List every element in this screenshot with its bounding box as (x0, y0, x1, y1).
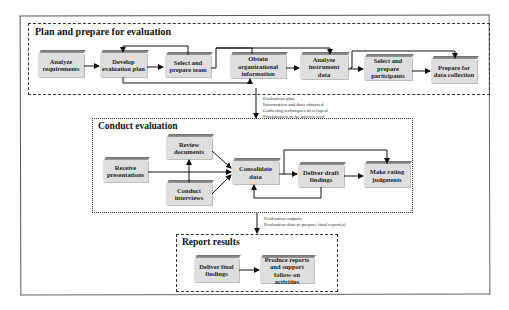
step-deliver-draft-findings: Deliver draft findings (298, 165, 344, 187)
step-select-prepare-team: Select and prepare team (165, 55, 211, 77)
step-label: Consolidate data (232, 165, 279, 180)
step-select-prepare-participants: Select and prepare participants (364, 57, 412, 80)
step-label: Develop evaluation plan (100, 58, 147, 73)
step-label: Conduct interviews (166, 187, 212, 202)
step-label: Make rating judgments (364, 168, 410, 183)
step-label: Receive presentations (103, 164, 148, 179)
step-review-documents: Review documents (166, 137, 212, 159)
section-title-report: Report results (182, 237, 240, 247)
step-produce-reports: Produce reports and support follow-on ac… (260, 258, 314, 283)
step-obtain-org-info: Obtain organizational information (230, 55, 286, 78)
step-label: Deliver final findings (194, 263, 239, 278)
step-develop-evaluation-plan: Develop evaluation plan (100, 53, 147, 77)
step-make-rating-judgments: Make rating judgments (364, 164, 410, 187)
step-label: Select and prepare participants (364, 57, 412, 80)
section-title-plan: Plan and prepare for evaluation (35, 26, 171, 37)
step-label: Review documents (166, 141, 212, 156)
section-title-conduct: Conduct evaluation (98, 121, 177, 131)
step-analyze-requirements: Analyze requirements (38, 53, 84, 77)
step-label: Analyze requirements (38, 58, 84, 73)
step-label: Produce reports and support follow-on ac… (260, 256, 314, 286)
step-label: Analyze instrument data (300, 56, 348, 79)
step-label: Prepare for data collection (431, 64, 477, 79)
step-receive-presentations: Receive presentations (103, 160, 148, 182)
step-analyze-instrument-data: Analyze instrument data (300, 55, 348, 79)
step-label: Obtain organizational information (230, 55, 286, 78)
step-consolidate-data: Consolidate data (232, 161, 279, 184)
step-conduct-interviews: Conduct interviews (166, 183, 212, 205)
step-deliver-final-findings: Deliver final findings (194, 258, 239, 282)
note-line: Evaluation data to prepare final report(… (264, 222, 346, 228)
step-label: Select and prepare team (165, 59, 211, 74)
step-label: Deliver draft findings (298, 169, 344, 184)
step-prepare-data-collection: Prepare for data collection (431, 59, 477, 83)
